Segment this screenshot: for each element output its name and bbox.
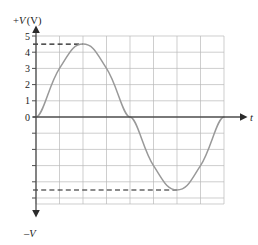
y-tick-label-5: 5 xyxy=(25,31,30,42)
y-axis-units: (V) xyxy=(27,15,42,27)
waveform-svg: 5 4 3 2 1 0 +V(V) –V t xyxy=(0,0,258,245)
y-axis-symbol: V xyxy=(19,15,27,26)
x-axis-title: t xyxy=(250,112,254,123)
y-axis-up-arrowhead xyxy=(32,26,40,34)
y-axis-negative-symbol: V xyxy=(29,228,37,239)
y-tick-label-0: 0 xyxy=(25,112,30,123)
y-tick-label-1: 1 xyxy=(25,95,30,106)
y-tick-label-4: 4 xyxy=(25,47,30,58)
waveform-figure: 5 4 3 2 1 0 +V(V) –V t xyxy=(0,0,258,245)
y-axis xyxy=(32,26,40,218)
x-axis xyxy=(33,113,248,121)
y-axis-title-negative: –V xyxy=(23,228,37,239)
y-axis-title-positive: +V(V) xyxy=(13,15,42,27)
y-axis-down-arrowhead xyxy=(32,210,40,218)
x-axis-arrowhead xyxy=(240,113,248,121)
y-tick-label-3: 3 xyxy=(25,63,30,74)
y-tick-label-2: 2 xyxy=(25,79,30,90)
